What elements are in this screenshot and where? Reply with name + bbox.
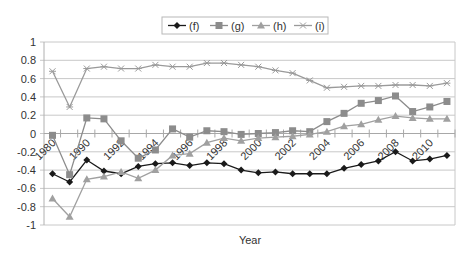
x-tick-label: 2006 <box>341 136 367 162</box>
square-marker <box>49 132 56 139</box>
x-marker <box>100 64 107 70</box>
x-marker <box>358 83 365 89</box>
y-tick-label: 0.2 <box>21 109 36 121</box>
series-line <box>53 63 447 107</box>
y-tick-label: 0.6 <box>21 73 36 85</box>
square-marker <box>203 127 210 134</box>
y-tick-label: 1 <box>30 36 36 48</box>
triangle-marker <box>117 168 125 175</box>
x-axis-title: Year <box>239 234 262 246</box>
x-marker <box>375 83 382 89</box>
y-tick-label: -0.8 <box>17 201 36 213</box>
x-marker <box>341 84 348 90</box>
diamond-marker <box>135 163 142 170</box>
y-tick-label: 0 <box>30 128 36 140</box>
diamond-marker <box>289 170 296 177</box>
legend-label: (g) <box>231 20 244 32</box>
square-marker <box>216 22 223 29</box>
x-marker <box>221 60 228 66</box>
y-tick-label: 0.8 <box>21 54 36 66</box>
square-marker <box>169 125 176 132</box>
x-marker <box>289 70 296 76</box>
x-marker <box>169 64 176 70</box>
x-marker <box>118 66 125 72</box>
x-marker <box>272 67 279 73</box>
square-marker <box>186 134 193 141</box>
series-i <box>49 60 450 110</box>
x-marker <box>443 80 450 86</box>
y-tick-label: -0.6 <box>17 182 36 194</box>
x-tick-label: 2004 <box>307 136 333 162</box>
x-marker <box>152 62 159 68</box>
diamond-marker <box>221 160 228 167</box>
legend-label: (h) <box>273 20 286 32</box>
x-marker <box>409 82 416 88</box>
square-marker <box>358 100 365 107</box>
diamond-marker <box>358 161 365 168</box>
diamond-marker <box>186 162 193 169</box>
diamond-marker <box>306 170 313 177</box>
square-marker <box>323 118 330 125</box>
diamond-marker <box>341 165 348 172</box>
square-marker <box>426 103 433 110</box>
x-marker <box>392 82 399 88</box>
y-tick-label: 0.4 <box>21 91 36 103</box>
y-tick-label: -1 <box>26 219 36 231</box>
square-marker <box>100 115 107 122</box>
square-marker <box>66 171 73 178</box>
x-marker <box>323 85 330 91</box>
x-marker <box>49 68 56 74</box>
diamond-marker <box>426 156 433 163</box>
square-marker <box>152 146 159 153</box>
x-marker <box>426 83 433 89</box>
legend: (f)(g)(h)(i) <box>162 17 328 34</box>
y-tick-label: -0.4 <box>17 164 36 176</box>
diamond-marker <box>443 152 450 159</box>
square-marker <box>135 155 142 162</box>
square-marker <box>392 92 399 99</box>
square-marker <box>118 137 125 144</box>
x-marker <box>203 60 210 66</box>
diamond-marker <box>272 168 279 175</box>
square-marker <box>83 114 90 121</box>
square-marker <box>375 97 382 104</box>
square-marker <box>443 98 450 105</box>
x-marker <box>83 66 90 72</box>
diamond-marker <box>323 170 330 177</box>
x-marker <box>186 64 193 70</box>
chart-canvas: 10.80.60.40.20-0.2-0.4-0.6-0.8-119801990… <box>0 0 470 255</box>
x-marker <box>135 66 142 72</box>
square-marker <box>341 110 348 117</box>
x-marker <box>238 62 245 68</box>
x-marker <box>66 104 73 110</box>
x-tick-label: 2002 <box>272 136 298 162</box>
triangle-marker <box>49 194 57 201</box>
diamond-marker <box>49 170 56 177</box>
legend-label: (i) <box>315 20 325 32</box>
series-h <box>49 112 451 220</box>
diamond-marker <box>238 167 245 174</box>
legend-label: (f) <box>189 20 199 32</box>
x-marker <box>255 64 262 70</box>
series-g <box>49 92 450 178</box>
line-chart: 10.80.60.40.20-0.2-0.4-0.6-0.8-119801990… <box>0 0 470 255</box>
